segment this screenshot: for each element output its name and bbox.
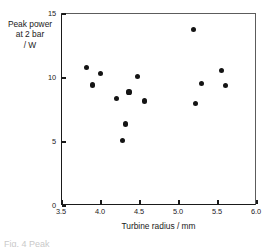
- data-point: [223, 83, 228, 88]
- y-tick-2: [62, 77, 66, 78]
- data-point: [135, 74, 140, 79]
- data-point: [191, 27, 196, 32]
- data-point: [142, 98, 147, 103]
- x-tick-5: [256, 200, 257, 204]
- x-tick-label-5: 6.0: [239, 207, 273, 216]
- x-axis-title: Turbine radius / mm: [61, 221, 256, 231]
- y-tick-label-2: 10: [36, 73, 56, 82]
- x-tick-2: [139, 200, 140, 204]
- data-point: [90, 82, 95, 87]
- y-axis-title-line-2: at 2 bar: [2, 29, 58, 39]
- data-point: [193, 101, 198, 106]
- data-point: [219, 68, 224, 73]
- y-tick-label-1: 5: [36, 137, 56, 146]
- x-tick-label-4: 5.5: [200, 207, 234, 216]
- x-tick-label-1: 4.0: [83, 207, 117, 216]
- figure-caption: Fig. 4 Peak: [4, 239, 50, 247]
- data-point: [98, 71, 103, 76]
- data-point: [126, 89, 131, 94]
- plot-area: [62, 14, 255, 204]
- x-tick-1: [100, 200, 101, 204]
- data-point: [120, 138, 125, 143]
- data-point: [199, 81, 204, 86]
- x-tick-label-3: 5.0: [161, 207, 195, 216]
- plot-frame: [61, 13, 256, 205]
- data-point: [123, 121, 128, 126]
- data-point: [114, 96, 119, 101]
- x-tick-label-2: 4.5: [122, 207, 156, 216]
- y-tick-1: [62, 141, 66, 142]
- y-tick-label-3: 15: [36, 9, 56, 18]
- y-axis-title: Peak power at 2 bar / W: [2, 19, 58, 50]
- data-point: [84, 65, 89, 70]
- x-tick-3: [178, 200, 179, 204]
- y-tick-label-0: 0: [36, 201, 56, 210]
- y-axis-title-line-1: Peak power: [2, 19, 58, 29]
- x-tick-4: [217, 200, 218, 204]
- x-tick-0: [61, 200, 62, 204]
- y-axis-title-line-3: / W: [2, 40, 58, 50]
- y-tick-3: [62, 13, 66, 14]
